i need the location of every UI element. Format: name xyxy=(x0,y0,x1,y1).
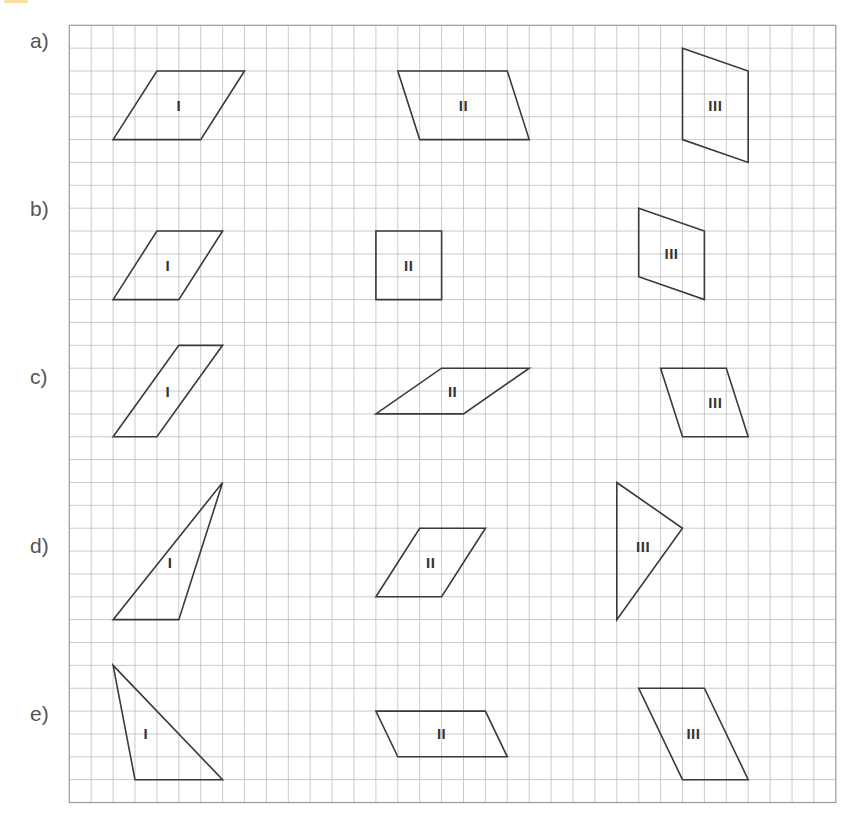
figure-numeral: III xyxy=(665,245,679,262)
figure-numeral: I xyxy=(144,725,149,742)
grid-worksheet: IIIIIIIIIIIIIIIIIIIIIIIIIIIIII xyxy=(0,0,858,831)
figure-numeral: III xyxy=(686,725,700,742)
figure-numeral: II xyxy=(426,554,435,571)
figure-numeral: III xyxy=(708,97,722,114)
figure-d-II: II xyxy=(376,528,486,597)
figure-b-I: I xyxy=(113,231,223,300)
triangle-outline xyxy=(113,665,223,779)
figure-a-III: III xyxy=(683,48,749,162)
figure-numeral: I xyxy=(166,257,171,274)
figure-numeral: III xyxy=(708,394,722,411)
figure-numeral: II xyxy=(459,97,468,114)
figure-b-II: II xyxy=(376,231,442,300)
figure-numeral: II xyxy=(448,383,457,400)
figure-numeral: I xyxy=(176,97,181,114)
figure-numeral: I xyxy=(168,554,173,571)
figure-numeral: II xyxy=(437,725,446,742)
figure-e-I: I xyxy=(113,665,223,779)
figure-numeral: I xyxy=(166,383,171,400)
figure-numeral: III xyxy=(636,538,650,555)
figure-numeral: II xyxy=(404,257,413,274)
